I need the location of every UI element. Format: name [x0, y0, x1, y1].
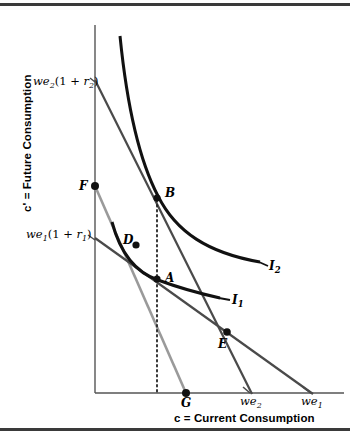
- tick-leader-we1: [303, 387, 311, 393]
- point-label-A: A: [165, 271, 174, 285]
- y-axis-label: c' = Future Consumption: [21, 74, 33, 212]
- data-point-D: [132, 241, 139, 248]
- curve-label-I2: I2: [269, 259, 281, 275]
- curve-label-I1: I1: [232, 293, 244, 309]
- x-tick-label-we1: we1: [301, 394, 323, 410]
- point-label-F: F: [79, 179, 88, 193]
- leader-curve-I2: [259, 262, 268, 266]
- y-intercept-label-we1: we1(1 + r1): [26, 227, 92, 243]
- point-label-B: B: [165, 186, 175, 200]
- point-label-E: E: [218, 337, 227, 351]
- figure-container: c' = Future Consumption c = Current Cons…: [0, 0, 350, 440]
- data-point-E: [223, 328, 231, 336]
- point-label-G: G: [181, 396, 191, 410]
- x-tick-label-we2: we2: [240, 394, 262, 410]
- x-axis-label: c = Current Consumption: [174, 412, 315, 424]
- point-label-D: D: [123, 233, 133, 247]
- data-point-B: [153, 194, 160, 201]
- indifference-curve-I2: [120, 36, 260, 262]
- data-point-A: [153, 275, 160, 282]
- data-point-F: [91, 182, 99, 190]
- y-intercept-label-we2: we2(1 + r2): [33, 74, 99, 90]
- leader-curve-I1: [219, 298, 230, 300]
- chart-svg: [0, 0, 350, 440]
